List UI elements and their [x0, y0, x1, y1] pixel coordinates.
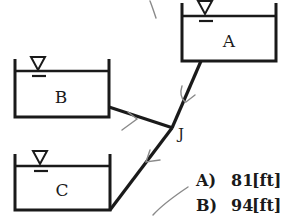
reservoir-a: A [182, 1, 276, 61]
pipe-b-j [109, 107, 173, 128]
water-level-triangle-icon [33, 151, 48, 171]
pipe-a-j [172, 61, 201, 128]
reservoir-b: B [15, 57, 109, 117]
answer-letter: A) [195, 171, 216, 190]
water-level-triangle-icon [198, 1, 213, 21]
answer-choice-b: B) 94 [ft] [196, 196, 281, 215]
water-level-triangle-icon [31, 57, 46, 76]
reservoir-c: C [15, 151, 110, 210]
reservoir-a-label: A [222, 31, 236, 51]
answer-value: 81 [231, 171, 253, 190]
reservoir-diagram: A B C J A) [0, 0, 284, 218]
answer-unit: [ft] [252, 171, 281, 190]
pencil-flow-arrows [122, 1, 195, 215]
answer-choice-a: A) 81 [ft] [195, 171, 281, 190]
junction-label: J [176, 125, 184, 143]
answer-choices: A) 81 [ft] B) 94 [ft] [195, 171, 281, 215]
pencil-stroke [153, 187, 188, 215]
reservoir-b-label: B [55, 87, 68, 107]
pipe-j-c [110, 128, 172, 210]
answer-letter: B) [196, 196, 217, 215]
answer-value: 94 [231, 196, 253, 215]
reservoir-c-label: C [55, 180, 68, 200]
pencil-stroke [150, 1, 156, 18]
answer-unit: [ft] [252, 196, 281, 215]
